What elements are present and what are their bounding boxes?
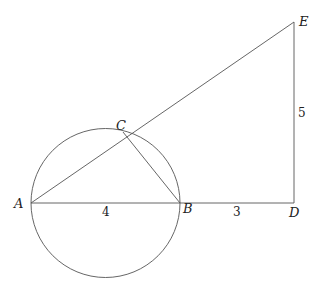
label-d: D [288, 205, 300, 220]
segment-ae [31, 22, 294, 203]
geometry-diagram: A B C D E 4 3 5 [0, 0, 320, 289]
label-c: C [116, 118, 126, 133]
length-de: 5 [298, 106, 306, 120]
length-bd: 3 [233, 205, 241, 219]
label-b: B [182, 201, 193, 216]
label-a: A [13, 196, 23, 211]
length-ab: 4 [102, 205, 110, 219]
label-e: E [298, 14, 309, 29]
